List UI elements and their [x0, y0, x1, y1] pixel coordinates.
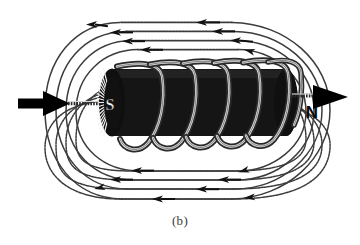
figure-container: S N (b)	[0, 0, 360, 245]
solenoid-field-diagram: S N	[0, 0, 360, 245]
figure-caption: (b)	[0, 213, 360, 229]
south-pole-label: S	[106, 96, 115, 113]
solenoid-core-front-mask	[124, 74, 150, 132]
